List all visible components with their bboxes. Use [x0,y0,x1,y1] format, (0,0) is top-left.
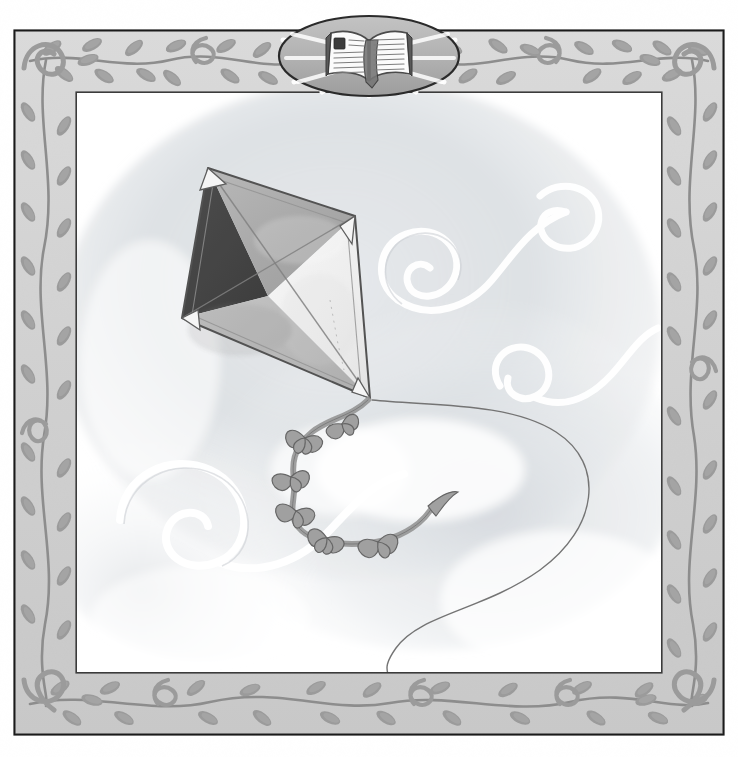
inner-artwork [40,80,680,675]
bookmark-icon [334,38,345,49]
kite-illustration-svg [0,0,738,757]
illustration-canvas: Kite with Flower Tail A diamond kite fly… [0,0,738,757]
panel-haze [77,93,661,672]
